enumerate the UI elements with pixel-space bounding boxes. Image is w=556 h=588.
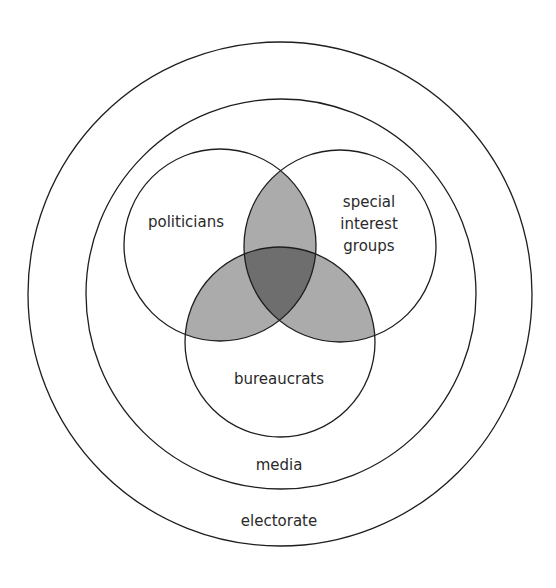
sig-label-line-3: groups (343, 237, 395, 255)
venn-diagram: politicians special interest groups bure… (0, 0, 556, 588)
media-label: media (256, 456, 303, 474)
electorate-label: electorate (241, 512, 317, 530)
bureaucrats-label: bureaucrats (234, 370, 324, 388)
sig-label-line-2: interest (340, 215, 398, 233)
sig-label-line-1: special (343, 193, 395, 211)
politicians-label: politicians (148, 213, 224, 231)
